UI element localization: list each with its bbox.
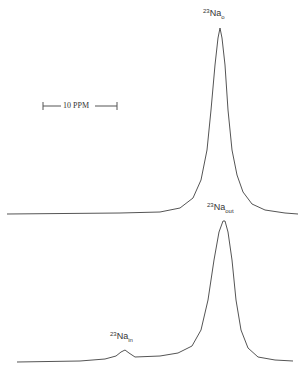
in-peak-subscript: in: [128, 337, 133, 343]
in-peak-element: Na: [117, 331, 129, 341]
nmr-spectra-plot: [0, 0, 308, 375]
out-peak-element: Na: [214, 202, 226, 212]
top-peak-element: Na: [210, 8, 222, 18]
bottom-spectrum-trace: [17, 221, 293, 362]
scale-bar-label: 10 PPM: [63, 101, 89, 110]
top-peak-subscript: o: [221, 14, 224, 20]
top-peak-label: 23Nao: [203, 9, 225, 18]
top-spectrum-trace: [7, 28, 298, 214]
out-peak-subscript: out: [225, 208, 233, 214]
bottom-in-peak-label: 23Nain: [110, 332, 133, 341]
out-peak-isotope: 23: [207, 202, 214, 208]
in-peak-isotope: 23: [110, 331, 117, 337]
bottom-out-peak-label: 23Naout: [207, 203, 234, 212]
top-peak-isotope: 23: [203, 8, 210, 14]
